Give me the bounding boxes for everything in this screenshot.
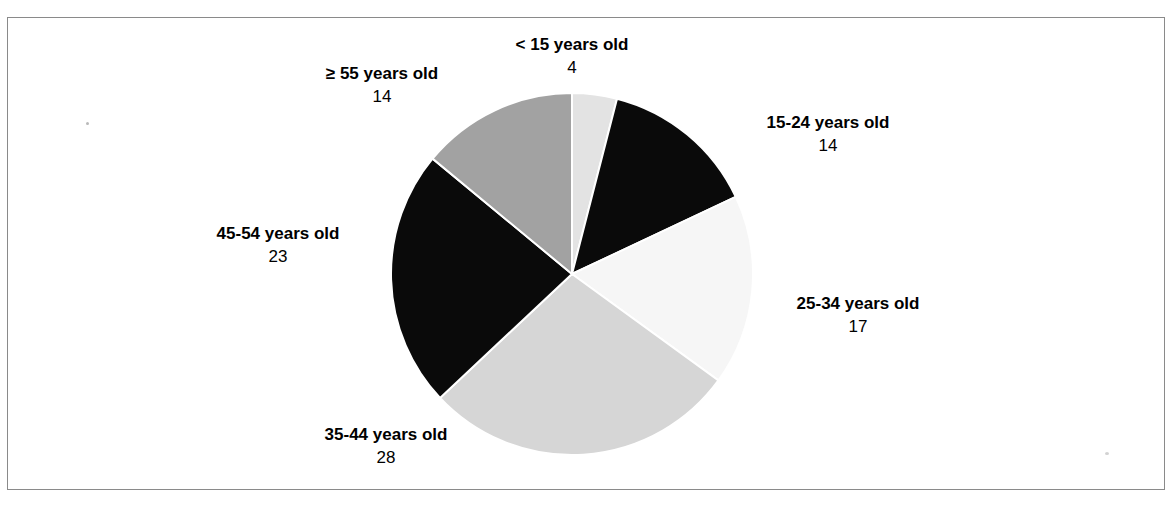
slice-label-ge55-text: ≥ 55 years old bbox=[326, 64, 438, 83]
slice-label-lt15-text: < 15 years old bbox=[516, 35, 629, 54]
slice-label-45-54-text: 45-54 years old bbox=[217, 224, 340, 243]
slice-label-45-54-value: 23 bbox=[158, 245, 398, 268]
figure-root: < 15 years old 4 ≥ 55 years old 14 15-24… bbox=[0, 0, 1176, 507]
slice-label-15-24: 15-24 years old 14 bbox=[708, 111, 948, 157]
slice-label-25-34-text: 25-34 years old bbox=[797, 294, 920, 313]
slice-label-15-24-value: 14 bbox=[708, 134, 948, 157]
slice-label-ge55-value: 14 bbox=[262, 85, 502, 108]
slice-label-15-24-text: 15-24 years old bbox=[767, 113, 890, 132]
slice-label-45-54: 45-54 years old 23 bbox=[158, 222, 398, 268]
clipped-caption bbox=[8, 0, 1108, 8]
slice-label-35-44: 35-44 years old 28 bbox=[266, 423, 506, 469]
slice-label-25-34-value: 17 bbox=[738, 315, 978, 338]
slice-label-35-44-text: 35-44 years old bbox=[325, 425, 448, 444]
slice-label-ge55: ≥ 55 years old 14 bbox=[262, 62, 502, 108]
scan-speckle-icon bbox=[86, 122, 89, 125]
slice-label-25-34: 25-34 years old 17 bbox=[738, 292, 978, 338]
slice-label-35-44-value: 28 bbox=[266, 446, 506, 469]
scan-speckle-icon bbox=[1105, 452, 1109, 455]
